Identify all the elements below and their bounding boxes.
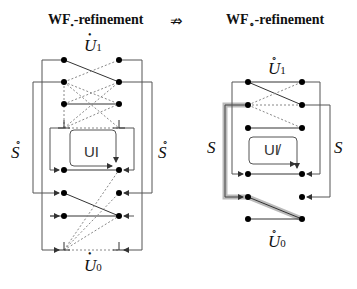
diagram-canvas [0, 0, 357, 289]
right-diagram [225, 79, 330, 222]
left-diagram [33, 57, 152, 250]
